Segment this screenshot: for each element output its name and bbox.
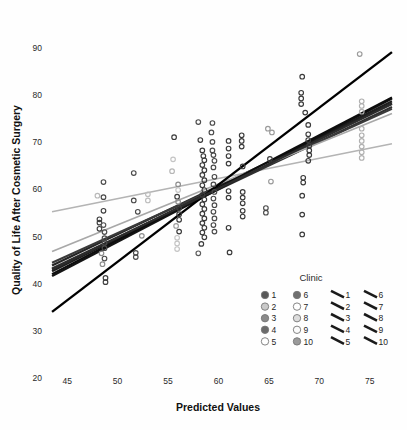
y-tick-label-20: 20 [33, 373, 43, 383]
y-tick-label-80: 80 [33, 90, 43, 100]
y-tick-label-60: 60 [33, 184, 43, 194]
legend-line-label-1: 1 [346, 290, 351, 300]
legend-marker-clinic-10[interactable] [293, 338, 300, 345]
x-tick-label-75: 75 [365, 376, 375, 386]
legend-line-label-5: 5 [346, 337, 351, 347]
x-tick-label-50: 50 [113, 376, 123, 386]
legend-marker-clinic-2[interactable] [261, 303, 268, 310]
scatter-plot-figure: 2030405060708090 45505560657075 Quality … [0, 0, 407, 430]
legend-line-label-10: 10 [379, 337, 389, 347]
legend-marker-label-4: 4 [272, 325, 277, 335]
legend-marker-label-10: 10 [304, 337, 314, 347]
legend-marker-clinic-3[interactable] [261, 315, 268, 322]
legend-marker-label-3: 3 [272, 313, 277, 323]
legend-line-label-2: 2 [346, 302, 351, 312]
legend-title: Clinic [299, 272, 322, 283]
legend-marker-clinic-9[interactable] [293, 326, 300, 333]
legend-marker-label-2: 2 [272, 302, 277, 312]
legend-line-label-3: 3 [346, 313, 351, 323]
legend-marker-label-1: 1 [272, 290, 277, 300]
y-tick-label-90: 90 [33, 43, 43, 53]
legend-marker-label-7: 7 [304, 302, 309, 312]
legend-marker-clinic-1[interactable] [261, 291, 268, 298]
y-tick-label-50: 50 [33, 232, 43, 242]
chart-canvas: 2030405060708090 45505560657075 Quality … [0, 0, 407, 430]
legend-marker-label-8: 8 [304, 313, 309, 323]
legend-marker-clinic-6[interactable] [293, 291, 300, 298]
legend-marker-clinic-5[interactable] [261, 338, 268, 345]
y-tick-label-40: 40 [33, 279, 43, 289]
y-tick-label-70: 70 [33, 137, 43, 147]
x-tick-label-45: 45 [62, 376, 72, 386]
legend-marker-clinic-4[interactable] [261, 326, 268, 333]
y-axis-label: Quality of Life After Cosmetic Surgery [10, 105, 22, 295]
x-tick-label-55: 55 [163, 376, 173, 386]
legend-line-label-4: 4 [346, 325, 351, 335]
x-tick-label-70: 70 [315, 376, 325, 386]
legend-line-label-7: 7 [379, 302, 384, 312]
legend-marker-clinic-7[interactable] [293, 303, 300, 310]
legend-marker-label-9: 9 [304, 325, 309, 335]
legend-line-label-9: 9 [379, 325, 384, 335]
y-tick-label-30: 30 [33, 326, 43, 336]
legend-line-label-8: 8 [379, 313, 384, 323]
legend-marker-label-6: 6 [304, 290, 309, 300]
legend-marker-clinic-8[interactable] [293, 315, 300, 322]
x-tick-label-65: 65 [264, 376, 274, 386]
x-axis-label: Predicted Values [176, 401, 260, 413]
legend-line-label-6: 6 [379, 290, 384, 300]
legend-marker-label-5: 5 [272, 337, 277, 347]
x-tick-label-60: 60 [214, 376, 224, 386]
